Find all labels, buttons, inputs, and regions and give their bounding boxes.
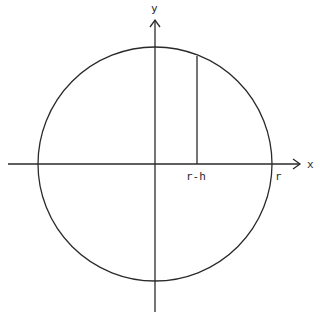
x-axis-label: x bbox=[307, 158, 314, 171]
chord-position-label: r-h bbox=[186, 170, 206, 183]
y-axis-label: y bbox=[151, 2, 158, 15]
circle-diagram: x y r-h r bbox=[0, 0, 320, 329]
radius-label: r bbox=[275, 170, 282, 183]
